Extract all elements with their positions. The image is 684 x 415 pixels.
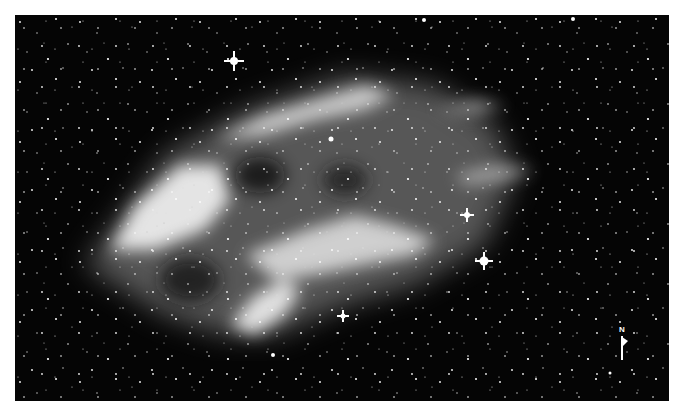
astronomical-image [15,15,669,401]
north-label: N [619,326,625,334]
arrow-head-icon [622,337,628,347]
north-arrow-indicator: N [616,326,632,366]
nebula-graphic [15,15,669,401]
